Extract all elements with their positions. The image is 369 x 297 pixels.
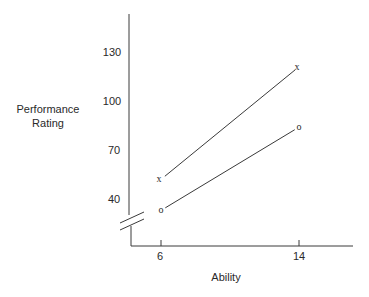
line-chart: 6 14 40 70 100 130 Performance Rating Ab… [0, 0, 369, 297]
data-point-marker-o: o [297, 121, 302, 132]
axis-break-mark [120, 219, 144, 230]
x-tick-label: 6 [157, 250, 163, 262]
data-point-marker-o: o [159, 204, 164, 215]
x-axis-title: Ability [211, 271, 241, 283]
data-point-marker-x: x [157, 173, 162, 184]
x-tick-label: 14 [293, 250, 305, 262]
y-tick-label: 130 [103, 46, 121, 58]
axis-break-mark [120, 212, 144, 223]
x-axis [131, 226, 353, 246]
y-tick-label: 100 [103, 95, 121, 107]
data-point-marker-x: x [295, 61, 300, 72]
series-line-x [165, 70, 295, 176]
y-tick-label: 40 [108, 193, 120, 205]
series-line-o [165, 130, 294, 208]
y-tick-label: 70 [108, 144, 120, 156]
y-axis-title: Rating [32, 117, 64, 129]
y-axis-title: Performance [17, 103, 80, 115]
